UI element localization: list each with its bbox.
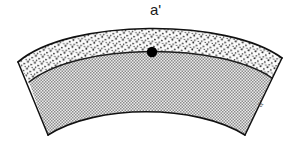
figure-container: a' a'': [0, 0, 298, 160]
point-a-prime-marker: [147, 47, 157, 57]
arc-band-diagram: [0, 0, 298, 160]
label-a-prime: a': [150, 2, 161, 17]
